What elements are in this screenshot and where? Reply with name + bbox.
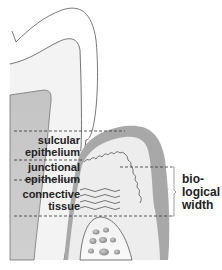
biological-width-diagram: sulcular epithelium junctional epitheliu… bbox=[0, 0, 222, 270]
label-line: junctional bbox=[12, 161, 80, 173]
biological-width-bracket bbox=[172, 167, 176, 216]
label-junctional-epithelium: junctional epithelium bbox=[12, 161, 80, 185]
label-line: sulcular bbox=[12, 134, 80, 146]
label-line: epithelium bbox=[12, 146, 80, 158]
label-biological-width: bio- logical width bbox=[182, 173, 220, 212]
label-connective-tissue: connective tissue bbox=[12, 188, 80, 212]
label-line: width bbox=[182, 199, 220, 212]
label-sulcular-epithelium: sulcular epithelium bbox=[12, 134, 80, 158]
label-line: epithelium bbox=[12, 173, 80, 185]
label-line: tissue bbox=[12, 200, 80, 212]
label-line: connective bbox=[12, 188, 80, 200]
